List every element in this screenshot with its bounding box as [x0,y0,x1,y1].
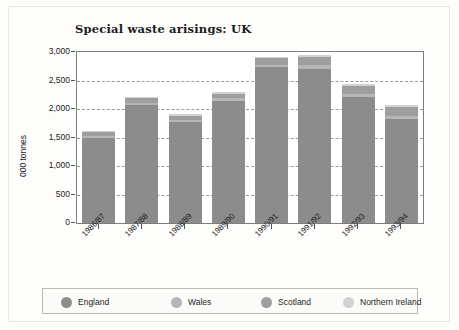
y-axis-tick-mark [71,222,75,223]
y-axis-tick-label: 2,500 [8,75,70,85]
bar-segment-ni [342,84,375,86]
y-axis-tick-mark [71,165,75,166]
bar-segment-ni [169,114,202,115]
y-axis-tick-mark [71,194,75,195]
plot-area [76,51,424,224]
bar-1990-91 [255,57,288,223]
bar-segment-wales [212,98,245,101]
y-axis-tick-label: 500 [8,189,70,199]
legend-swatch-icon [261,297,272,308]
bar-segment-ni [82,131,115,133]
legend-item-scotland[interactable]: Scotland [261,289,311,315]
chart-legend: EnglandWalesScotlandNorthern Ireland [42,288,418,314]
y-axis-tick-label: 0 [8,217,70,227]
bar-segment-ni [298,55,331,57]
bar-segment-england [385,119,418,223]
bar-segment-england [342,97,375,223]
bar-segment-england [125,105,158,223]
bar-segment-ni [125,97,158,98]
bar-1988-89 [169,114,202,223]
legend-label: Northern Ireland [360,297,421,307]
bar-segment-england [169,122,202,223]
gridline [77,81,423,82]
y-axis-tick-mark [71,51,75,52]
bar-segment-scotland [342,86,375,94]
bar-segment-england [212,101,245,223]
bar-1986-87 [82,131,115,223]
y-axis-tick-mark [71,80,75,81]
legend-swatch-icon [343,297,354,308]
bar-segment-scotland [169,116,202,120]
bar-segment-wales [385,116,418,119]
bar-1987-88 [125,97,158,223]
bar-segment-scotland [385,107,418,116]
legend-label: England [78,297,109,307]
bar-segment-wales [342,94,375,97]
chart-figure: Special waste arisings: UK 000 tonnes 05… [0,0,459,330]
y-axis-tick-mark [71,137,75,138]
bar-segment-scotland [82,132,115,135]
legend-item-northern-ireland[interactable]: Northern Ireland [343,289,421,315]
bar-segment-wales [125,103,158,105]
legend-item-england[interactable]: England [61,289,109,315]
bar-segment-scotland [125,98,158,103]
bar-1991-92 [298,55,331,223]
bar-segment-ni [385,105,418,107]
legend-label: Wales [188,297,211,307]
bar-segment-ni [255,57,288,59]
y-axis-tick-mark [71,108,75,109]
bar-1989-90 [212,92,245,223]
bar-segment-wales [255,65,288,68]
bar-segment-scotland [212,94,245,99]
bar-segment-wales [169,120,202,122]
legend-swatch-icon [171,297,182,308]
page-title: Special waste arisings: UK [75,22,251,36]
bar-segment-wales [298,65,331,68]
bar-segment-ni [212,92,245,93]
bar-segment-england [82,138,115,224]
bar-segment-england [255,67,288,223]
bar-segment-scotland [298,57,331,66]
bar-1992-93 [342,84,375,223]
y-axis-tick-label: 1,500 [8,132,70,142]
bar-1993-94 [385,105,418,223]
y-axis-tick-label: 2,000 [8,103,70,113]
bar-segment-scotland [255,58,288,64]
y-axis-tick-label: 1,000 [8,160,70,170]
bar-segment-england [298,69,331,223]
y-axis: 000 tonnes 05001,0001,5002,0002,5003,000 [6,51,70,224]
bar-segment-wales [82,136,115,138]
legend-item-wales[interactable]: Wales [171,289,211,315]
y-axis-tick-label: 3,000 [8,46,70,56]
legend-label: Scotland [278,297,311,307]
legend-swatch-icon [61,297,72,308]
